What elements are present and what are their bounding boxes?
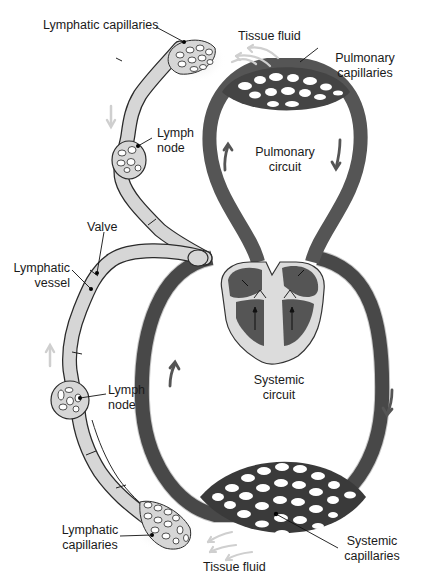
label-line: node [108,398,145,413]
label-line: Lymph [157,126,194,141]
label-tissue-fluid-bottom: Tissue fluid [203,560,266,575]
label-line: capillaries [336,549,408,564]
label-line: Systemic [336,534,408,549]
label-line: capillaries [55,538,125,553]
label-tissue-fluid-top: Tissue fluid [238,29,301,44]
lymph-node-bottom [51,381,89,419]
label-line: Systemic [249,373,309,388]
label-pulmonary-circuit: Pulmonary circuit [245,145,325,175]
systemic-capillary-bed [200,462,366,536]
label-lymphatic-capillaries-top: Lymphatic capillaries [43,18,159,33]
label-line: circuit [249,388,309,403]
label-lymph-node-top: Lymph node [157,126,194,156]
label-line: Pulmonary [320,51,410,66]
label-pulmonary-capillaries: Pulmonary capillaries [320,51,410,81]
label-line: capillaries [320,66,410,81]
lymphatic-vessels [69,48,208,520]
label-line: Lymphatic [10,261,70,276]
label-line: circuit [245,160,325,175]
lymph-node-top [112,141,146,179]
label-line: Lymphatic [55,523,125,538]
label-systemic-circuit: Systemic circuit [249,373,309,403]
label-lymphatic-capillaries-bottom: Lymphatic capillaries [55,523,125,553]
label-lymph-node-bottom: Lymph node [108,383,145,413]
label-line: Lymph [108,383,145,398]
label-line: node [157,141,194,156]
label-lymphatic-vessel: Lymphatic vessel [10,261,70,291]
label-line: Pulmonary [245,145,325,160]
label-line: vessel [10,276,70,291]
lymphatic-capillaries-top [166,38,226,82]
label-valve: Valve [87,220,117,235]
label-systemic-capillaries: Systemic capillaries [336,534,408,564]
heart [221,262,324,364]
